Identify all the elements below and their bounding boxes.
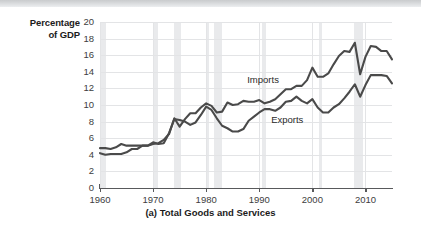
y-tick-label: 18: [72, 33, 94, 44]
plot-area: [100, 22, 392, 188]
figure-caption: (a) Total Goods and Services: [0, 207, 421, 218]
x-axis-line: [100, 188, 393, 189]
y-axis-title-line1: Percentage: [8, 17, 80, 29]
y-axis-title: Percentage of GDP: [8, 17, 80, 40]
x-tick: [100, 188, 101, 192]
x-tick-label: 1970: [130, 194, 176, 205]
y-tick-label: 16: [72, 49, 94, 60]
line-imports: [100, 43, 392, 155]
series-label-exports: Exports: [271, 114, 303, 125]
x-tick: [206, 188, 207, 192]
y-tick-label: 8: [72, 116, 94, 127]
y-tick-label: 12: [72, 82, 94, 93]
top-divider-rule: [0, 0, 421, 7]
y-tick-label: 14: [72, 66, 94, 77]
y-tick-label: 0: [72, 182, 94, 193]
y-tick-label: 4: [72, 149, 94, 160]
x-tick: [259, 188, 260, 192]
x-tick: [365, 188, 366, 192]
series-lines: [100, 22, 392, 188]
chart-figure: Percentage of GDP 02468101214161820 1960…: [0, 0, 421, 230]
x-tick-label: 2010: [342, 194, 388, 205]
x-tick: [153, 188, 154, 192]
y-tick-label: 10: [72, 99, 94, 110]
x-tick-label: 1980: [183, 194, 229, 205]
series-label-imports: Imports: [247, 74, 279, 85]
y-tick-label: 20: [72, 16, 94, 27]
y-tick-label: 6: [72, 132, 94, 143]
y-tick-label: 2: [72, 165, 94, 176]
y-axis-title-line2: of GDP: [8, 29, 80, 41]
x-tick-label: 2000: [289, 194, 335, 205]
line-exports: [100, 75, 392, 149]
x-tick-label: 1960: [77, 194, 123, 205]
x-tick: [312, 188, 313, 192]
x-tick-label: 1990: [236, 194, 282, 205]
